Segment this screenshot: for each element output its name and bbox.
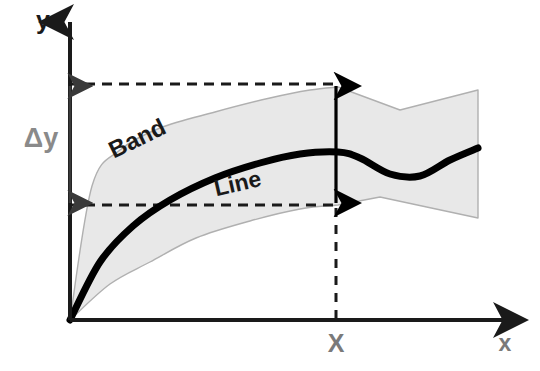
y-axis-label: y bbox=[36, 6, 50, 34]
delta-y-label: Δy bbox=[24, 123, 58, 153]
x-marker-label: X bbox=[328, 329, 345, 357]
band-and-line-diagram: y x Δy Band Line X bbox=[0, 0, 540, 371]
x-axis-label: x bbox=[499, 330, 512, 356]
